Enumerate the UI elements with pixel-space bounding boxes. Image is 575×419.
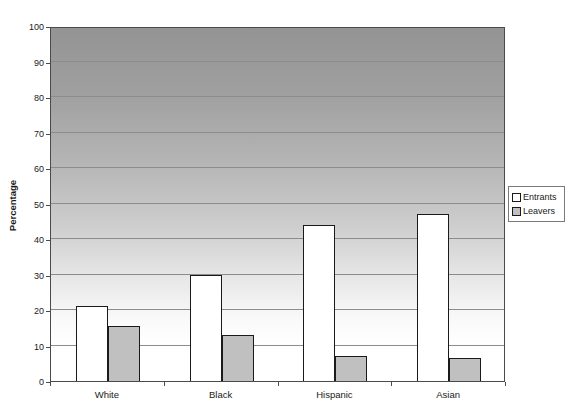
x-category-label: Asian [391,389,505,400]
bar-leavers-white [108,326,140,381]
gridline [51,61,504,62]
gridline [51,96,504,97]
legend: EntrantsLeavers [508,186,565,222]
legend-item-leavers: Leavers [512,204,562,218]
y-tick-label: 90 [22,59,44,68]
bar-leavers-black [222,335,254,381]
y-tick-label: 70 [22,130,44,139]
legend-swatch-leavers [512,207,521,216]
y-tick-label: 80 [22,94,44,103]
x-tick-mark [50,382,51,386]
y-tick-mark [46,347,50,348]
x-tick-mark [391,382,392,386]
legend-item-entrants: Entrants [512,190,562,204]
y-tick-label: 100 [22,23,44,32]
y-tick-mark [46,276,50,277]
legend-label: Entrants [523,192,557,202]
plot-area [50,27,505,382]
y-tick-mark [46,134,50,135]
y-axis-title: Percentage [7,156,18,256]
bar-entrants-black [190,275,222,382]
x-tick-mark [164,382,165,386]
y-tick-mark [46,311,50,312]
x-category-label: Hispanic [278,389,392,400]
bar-entrants-hispanic [303,225,335,381]
bar-entrants-asian [417,214,449,381]
bar-leavers-hispanic [335,356,367,381]
y-tick-mark [46,98,50,99]
legend-label: Leavers [523,206,555,216]
legend-swatch-entrants [512,193,521,202]
bar-leavers-asian [449,358,481,381]
x-tick-mark [278,382,279,386]
x-category-label: Black [164,389,278,400]
gridline [51,203,504,204]
y-tick-label: 20 [22,307,44,316]
y-tick-mark [46,240,50,241]
gridline [51,132,504,133]
y-tick-label: 40 [22,236,44,245]
gridline [51,167,504,168]
bar-chart-figure: Percentage 0102030405060708090100 WhiteB… [0,0,575,419]
y-tick-label: 60 [22,165,44,174]
bar-entrants-white [76,306,108,381]
y-tick-label: 50 [22,201,44,210]
y-tick-mark [46,169,50,170]
y-tick-mark [46,27,50,28]
x-category-label: White [50,389,164,400]
y-tick-mark [46,205,50,206]
x-tick-mark [505,382,506,386]
y-tick-label: 0 [22,378,44,387]
y-tick-label: 30 [22,272,44,281]
y-tick-label: 10 [22,343,44,352]
y-tick-mark [46,63,50,64]
